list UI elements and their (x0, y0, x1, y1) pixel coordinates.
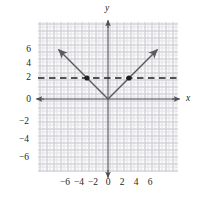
graph-figure: 6 4 2 0 −2 −4 −6 −6 −4 −2 0 2 4 6 y x (0, 0, 208, 202)
y-axis-name-label: y (105, 3, 109, 13)
intersection-point-left (84, 75, 89, 80)
graph-overlay (0, 0, 208, 202)
y-tick-label-0: 0 (13, 94, 31, 104)
y-tick-label-4: 4 (13, 58, 31, 68)
y-tick-label-6: 6 (13, 44, 31, 54)
x-tick-label-6: 6 (142, 177, 158, 187)
x-tick-label-neg2: −2 (85, 177, 101, 187)
x-axis-name-label: x (186, 93, 190, 103)
y-tick-label-neg6: −6 (11, 152, 29, 162)
y-tick-label-neg4: −4 (11, 134, 29, 144)
y-tick-label-neg2: −2 (11, 116, 29, 126)
y-tick-label-2: 2 (13, 72, 31, 82)
intersection-point-right (126, 75, 131, 80)
